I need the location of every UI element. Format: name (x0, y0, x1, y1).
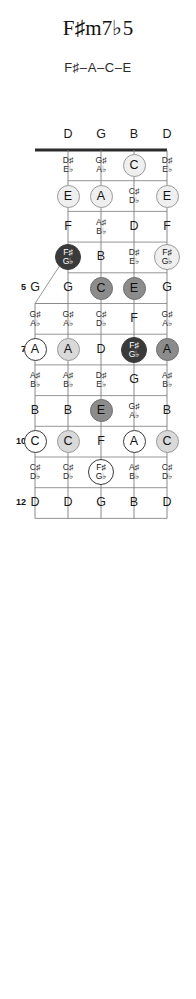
note-label-f1-s3: G♯A♭ (85, 156, 117, 174)
note-label-f6-s4: F (118, 312, 150, 325)
note-label-f5-s5: G (151, 281, 183, 294)
note-label-f9-s1: B (19, 404, 51, 417)
note-label-f11-s1: C♯D♭ (19, 463, 51, 481)
chord-tone-label: A (130, 435, 138, 448)
note-label-f1-s5: D♯E♭ (151, 156, 183, 174)
chord-tone-label: C (162, 435, 171, 448)
chord-diagram-page: F♯m7♭5 F♯–A–C–E DGBD571012D♯E♭G♯A♭CD♯E♭E… (0, 0, 196, 999)
chord-tone-label: E (163, 190, 171, 203)
note-label-f9-s4: G♯A♭ (118, 402, 150, 420)
chord-tone-f7-s1[interactable]: A (24, 338, 47, 361)
note-label-f12-s5: D (151, 496, 183, 509)
chord-tone-f7-s5[interactable]: A (156, 338, 179, 361)
note-label-f5-s1: G (19, 281, 51, 294)
note-label-f3-s2: F (52, 220, 84, 233)
open-string-label-4: D (153, 128, 181, 141)
chord-tone-f10-s1[interactable]: C (24, 430, 47, 453)
note-label-f9-s2: B (52, 404, 84, 417)
open-string-label-3: B (120, 128, 148, 141)
chord-tone-label: E (130, 282, 138, 295)
chord-tone-f7-s4[interactable]: F♯G♭ (121, 337, 147, 363)
chord-tone-label: C (30, 435, 39, 448)
note-label-f6-s1: G♯A♭ (19, 310, 51, 328)
note-label-f12-s2: D (52, 496, 84, 509)
chord-tone-label: A (31, 343, 39, 356)
note-label-f9-s5: B (151, 404, 183, 417)
note-label-f6-s2: G♯A♭ (52, 310, 84, 328)
note-label-f7-s3: D (85, 343, 117, 356)
note-label-f4-s3: B (85, 250, 117, 263)
note-label-f12-s3: G (85, 496, 117, 509)
chord-tone-f10-s2[interactable]: C (57, 430, 80, 453)
note-label-f3-s4: D (118, 220, 150, 233)
chord-tone-label: F♯G♭ (63, 248, 74, 266)
note-label-f3-s5: F (151, 220, 183, 233)
chord-tone-label: E (64, 190, 72, 203)
note-label-f6-s3: C♯D♭ (85, 310, 117, 328)
note-label-f5-s2: G (52, 281, 84, 294)
chord-tone-f2-s5[interactable]: E (156, 185, 179, 208)
open-string-label-1: D (54, 128, 82, 141)
note-label-f6-s5: G♯A♭ (151, 310, 183, 328)
note-label-f8-s4: G (118, 373, 150, 386)
note-label-f3-s3: A♯B♭ (85, 218, 117, 236)
chord-tone-label: A (64, 343, 72, 356)
note-label-f11-s2: C♯D♭ (52, 463, 84, 481)
note-label-f12-s4: B (118, 496, 150, 509)
note-label-f8-s3: D♯E♭ (85, 371, 117, 389)
chord-tone-f9-s3[interactable]: E (90, 399, 113, 422)
chord-tone-f10-s4[interactable]: A (123, 430, 146, 453)
chord-tone-f7-s2[interactable]: A (57, 338, 80, 361)
note-label-f8-s1: A♯B♭ (19, 371, 51, 389)
note-label-f11-s5: C♯D♭ (151, 463, 183, 481)
note-label-f12-s1: D (19, 496, 51, 509)
chord-tone-f10-s5[interactable]: C (156, 430, 179, 453)
chord-tone-f5-s3[interactable]: C (90, 277, 113, 300)
chord-tone-f2-s3[interactable]: A (90, 185, 113, 208)
chord-tone-label: F♯G♭ (96, 463, 107, 481)
chord-tone-label: C (96, 282, 105, 295)
note-label-f4-s4: D♯E♭ (118, 248, 150, 266)
note-label-f1-s2: D♯E♭ (52, 156, 84, 174)
chord-tone-label: A (163, 343, 171, 356)
note-label-f8-s5: A♯B♭ (151, 371, 183, 389)
note-label-f11-s4: A♯B♭ (118, 463, 150, 481)
open-string-label-2: G (87, 128, 115, 141)
chord-tone-f1-s4[interactable]: C (123, 154, 146, 177)
chord-tone-f5-s4[interactable]: E (123, 277, 146, 300)
chord-tone-f2-s2[interactable]: E (57, 185, 80, 208)
chord-tone-label: C (129, 159, 138, 172)
chord-tone-label: F♯G♭ (162, 248, 173, 266)
note-label-f10-s3: F (85, 435, 117, 448)
note-label-f8-s2: A♯B♭ (52, 371, 84, 389)
fretboard: DGBD571012D♯E♭G♯A♭CD♯E♭EAC♯D♭EFA♯B♭DFF♯G… (0, 0, 196, 999)
chord-tone-label: F♯G♭ (129, 341, 140, 359)
chord-tone-label: C (63, 435, 72, 448)
chord-tone-label: A (97, 190, 105, 203)
chord-tone-label: E (97, 404, 105, 417)
note-label-f2-s4: C♯D♭ (118, 187, 150, 205)
